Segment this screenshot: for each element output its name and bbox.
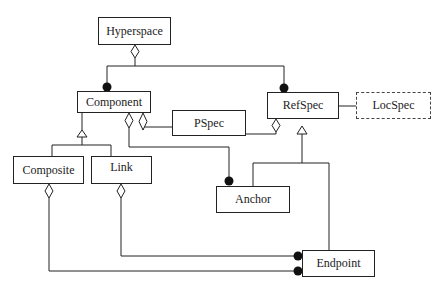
class-endpoint: Endpoint (302, 250, 375, 277)
class-refspec: RefSpec (267, 92, 339, 119)
class-label: Anchor (235, 192, 271, 207)
connector-layer (0, 0, 442, 293)
uml-diagram: Hyperspace Component PSpec RefSpec LocSp… (0, 0, 442, 293)
class-locspec: LocSpec (356, 92, 431, 119)
generalization-triangle-icon (77, 130, 87, 137)
class-component: Component (77, 91, 151, 113)
class-label: Endpoint (317, 256, 361, 271)
multiplicity-dot-icon (225, 177, 234, 186)
hyperspace-link-line (107, 66, 284, 88)
aggregation-diamond-icon (131, 45, 139, 58)
class-composite: Composite (13, 156, 84, 184)
generalization-triangle-icon (297, 126, 307, 134)
class-label: Hyperspace (106, 24, 163, 39)
aggregation-diamond-icon (45, 184, 53, 198)
class-label: PSpec (194, 116, 224, 131)
class-anchor: Anchor (216, 186, 290, 213)
class-label: RefSpec (283, 98, 324, 113)
class-hyperspace: Hyperspace (98, 17, 171, 45)
class-label: Composite (22, 163, 74, 178)
class-label: Link (110, 160, 133, 175)
class-link: Link (91, 156, 152, 184)
class-label: LocSpec (373, 98, 415, 113)
aggregation-diamond-icon (117, 184, 125, 198)
aggregation-diamond-icon (125, 113, 133, 128)
class-pspec: PSpec (172, 110, 246, 136)
aggregation-diamond-icon (272, 119, 280, 132)
class-label: Component (86, 95, 142, 110)
